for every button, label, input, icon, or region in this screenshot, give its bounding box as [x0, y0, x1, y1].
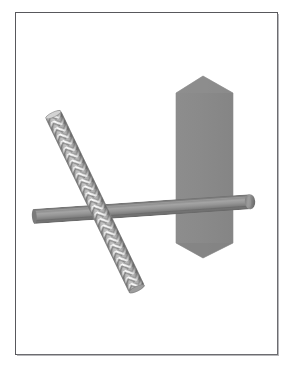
figure-scene — [0, 0, 295, 375]
hexagon-top-bevel — [176, 76, 233, 93]
hexagon-face — [176, 76, 233, 258]
hexagon-bottom-bevel — [176, 243, 233, 258]
threaded-rod — [45, 109, 146, 295]
technical-illustration-svg — [0, 0, 295, 375]
figure-root: Technical 3D rendering of a hexagonal pr… — [0, 0, 295, 375]
hexagonal-prism — [176, 76, 233, 258]
threaded-rod-shading — [45, 110, 145, 294]
